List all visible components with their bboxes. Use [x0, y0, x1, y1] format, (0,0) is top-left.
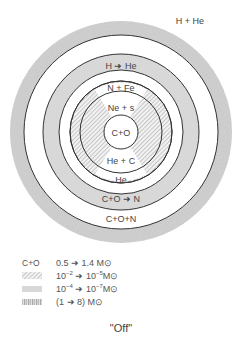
- legend-text-hatched: 10−2 ➜ 10−5M⊙: [56, 271, 118, 281]
- legend-text-core: 0.5 ➜ 1.4 M⊙: [56, 258, 112, 268]
- diagram-caption: "Off": [110, 322, 132, 334]
- legend-row-hatched: 10−2 ➜ 10−5M⊙: [22, 270, 118, 281]
- label-envelope: H + He: [176, 17, 204, 26]
- label-he: He: [115, 176, 127, 185]
- legend-key-core: C+O: [22, 259, 42, 266]
- speckled-swatch-icon: [22, 298, 42, 305]
- label-ne-s: Ne + s: [108, 104, 134, 113]
- hatched-swatch-icon: [22, 272, 42, 279]
- label-he-c: He + C: [107, 157, 135, 166]
- label-h-burning: H ➜ He: [105, 62, 136, 71]
- grey-swatch-icon: [22, 285, 42, 292]
- legend-row-grey: 10−4 ➜ 10−7M⊙: [22, 283, 118, 294]
- label-core: C+O: [112, 129, 131, 138]
- label-cno: C+O+N: [106, 215, 137, 224]
- shell-diagram: [0, 0, 243, 250]
- label-cno-burning: C+O ➜ N: [102, 195, 140, 204]
- legend-text-grey: 10−4 ➜ 10−7M⊙: [56, 284, 118, 294]
- legend-row-core: C+O 0.5 ➜ 1.4 M⊙: [22, 257, 112, 268]
- legend-row-speckled: (1 ➜ 8) M⊙: [22, 296, 103, 307]
- label-n-fe: N + Fe: [107, 84, 134, 93]
- legend-text-speckled: (1 ➜ 8) M⊙: [56, 297, 103, 307]
